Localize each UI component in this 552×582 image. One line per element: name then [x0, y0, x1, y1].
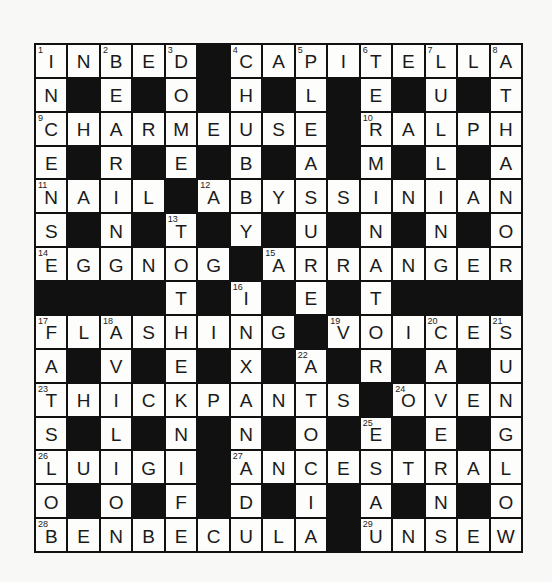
letter-cell[interactable]: S: [328, 384, 358, 416]
letter-cell[interactable]: E: [101, 79, 131, 111]
letter-cell[interactable]: 6T: [361, 45, 391, 77]
letter-cell[interactable]: G: [491, 418, 521, 450]
letter-cell[interactable]: 19V: [328, 316, 358, 348]
letter-cell[interactable]: N: [393, 248, 423, 280]
letter-cell[interactable]: O: [36, 485, 66, 517]
letter-cell[interactable]: 24O: [393, 384, 423, 416]
letter-cell[interactable]: R: [101, 147, 131, 179]
letter-cell[interactable]: E: [133, 45, 163, 77]
letter-cell[interactable]: G: [426, 248, 456, 280]
letter-cell[interactable]: E: [166, 519, 196, 551]
letter-cell[interactable]: 8A: [491, 45, 521, 77]
letter-cell[interactable]: 21S: [491, 316, 521, 348]
letter-cell[interactable]: B: [133, 519, 163, 551]
letter-cell[interactable]: N: [426, 485, 456, 517]
letter-cell[interactable]: 12A: [198, 180, 228, 212]
letter-cell[interactable]: K: [166, 384, 196, 416]
letter-cell[interactable]: G: [68, 248, 98, 280]
letter-cell[interactable]: U: [296, 214, 326, 246]
letter-cell[interactable]: G: [101, 248, 131, 280]
letter-cell[interactable]: T: [296, 384, 326, 416]
letter-cell[interactable]: O: [296, 418, 326, 450]
letter-cell[interactable]: E: [458, 384, 488, 416]
letter-cell[interactable]: A: [458, 451, 488, 483]
letter-cell[interactable]: A: [458, 180, 488, 212]
letter-cell[interactable]: L: [263, 519, 293, 551]
letter-cell[interactable]: B: [231, 147, 261, 179]
letter-cell[interactable]: 5P: [296, 45, 326, 77]
letter-cell[interactable]: 27A: [231, 451, 261, 483]
letter-cell[interactable]: 25E: [361, 418, 391, 450]
letter-cell[interactable]: U: [231, 519, 261, 551]
letter-cell[interactable]: I: [393, 316, 423, 348]
letter-cell[interactable]: A: [426, 350, 456, 382]
letter-cell[interactable]: Y: [263, 180, 293, 212]
letter-cell[interactable]: U: [68, 451, 98, 483]
letter-cell[interactable]: A: [68, 180, 98, 212]
letter-cell[interactable]: N: [393, 180, 423, 212]
letter-cell[interactable]: T: [491, 79, 521, 111]
letter-cell[interactable]: E: [458, 316, 488, 348]
letter-cell[interactable]: 2B: [101, 45, 131, 77]
letter-cell[interactable]: O: [361, 316, 391, 348]
letter-cell[interactable]: E: [458, 519, 488, 551]
letter-cell[interactable]: I: [426, 180, 456, 212]
letter-cell[interactable]: A: [491, 147, 521, 179]
letter-cell[interactable]: S: [263, 113, 293, 145]
letter-cell[interactable]: M: [166, 113, 196, 145]
letter-cell[interactable]: T: [166, 282, 196, 314]
letter-cell[interactable]: N: [231, 316, 261, 348]
letter-cell[interactable]: A: [296, 519, 326, 551]
letter-cell[interactable]: 29U: [361, 519, 391, 551]
letter-cell[interactable]: E: [458, 248, 488, 280]
letter-cell[interactable]: N: [426, 214, 456, 246]
letter-cell[interactable]: 4C: [231, 45, 261, 77]
letter-cell[interactable]: S: [328, 180, 358, 212]
letter-cell[interactable]: N: [361, 214, 391, 246]
letter-cell[interactable]: R: [328, 248, 358, 280]
letter-cell[interactable]: O: [491, 214, 521, 246]
letter-cell[interactable]: 9C: [36, 113, 66, 145]
letter-cell[interactable]: P: [458, 113, 488, 145]
letter-cell[interactable]: O: [101, 485, 131, 517]
letter-cell[interactable]: N: [101, 214, 131, 246]
letter-cell[interactable]: 20C: [426, 316, 456, 348]
letter-cell[interactable]: A: [231, 384, 261, 416]
letter-cell[interactable]: Y: [231, 214, 261, 246]
letter-cell[interactable]: A: [263, 45, 293, 77]
letter-cell[interactable]: L: [491, 451, 521, 483]
letter-cell[interactable]: L: [426, 113, 456, 145]
letter-cell[interactable]: E: [198, 113, 228, 145]
letter-cell[interactable]: A: [36, 350, 66, 382]
letter-cell[interactable]: 14E: [36, 248, 66, 280]
letter-cell[interactable]: D: [231, 485, 261, 517]
letter-cell[interactable]: N: [36, 79, 66, 111]
letter-cell[interactable]: 13T: [166, 214, 196, 246]
letter-cell[interactable]: L: [68, 316, 98, 348]
letter-cell[interactable]: R: [426, 451, 456, 483]
letter-cell[interactable]: S: [36, 214, 66, 246]
letter-cell[interactable]: 15A: [263, 248, 293, 280]
letter-cell[interactable]: A: [393, 113, 423, 145]
letter-cell[interactable]: E: [296, 282, 326, 314]
letter-cell[interactable]: G: [133, 451, 163, 483]
letter-cell[interactable]: E: [166, 147, 196, 179]
letter-cell[interactable]: H: [491, 113, 521, 145]
letter-cell[interactable]: U: [491, 350, 521, 382]
letter-cell[interactable]: 17F: [36, 316, 66, 348]
letter-cell[interactable]: R: [361, 350, 391, 382]
letter-cell[interactable]: 3D: [166, 45, 196, 77]
letter-cell[interactable]: R: [133, 113, 163, 145]
letter-cell[interactable]: A: [296, 147, 326, 179]
letter-cell[interactable]: L: [296, 79, 326, 111]
letter-cell[interactable]: A: [361, 248, 391, 280]
letter-cell[interactable]: B: [231, 180, 261, 212]
letter-cell[interactable]: 11N: [36, 180, 66, 212]
letter-cell[interactable]: I: [101, 384, 131, 416]
letter-cell[interactable]: R: [296, 248, 326, 280]
letter-cell[interactable]: L: [133, 180, 163, 212]
letter-cell[interactable]: E: [426, 418, 456, 450]
letter-cell[interactable]: L: [458, 45, 488, 77]
letter-cell[interactable]: 22A: [296, 350, 326, 382]
letter-cell[interactable]: I: [166, 451, 196, 483]
